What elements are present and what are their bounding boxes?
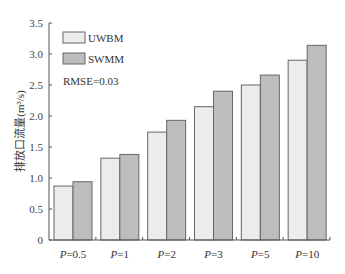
bar-uwbm xyxy=(148,132,167,240)
x-tick-label: P=10 xyxy=(294,248,319,260)
y-tick-label: 3.5 xyxy=(29,17,43,29)
y-tick-label: 2.0 xyxy=(29,110,43,122)
x-tick-label: P=1 xyxy=(110,248,129,260)
bar-swmm xyxy=(73,182,92,240)
bar-uwbm xyxy=(288,60,307,240)
bar-uwbm xyxy=(241,85,260,240)
bar-swmm xyxy=(307,45,326,240)
bar-uwbm xyxy=(101,158,120,240)
legend-swatch-swmm xyxy=(63,53,85,64)
bar-swmm xyxy=(167,120,186,240)
bar-chart: 00.51.01.52.02.53.03.5P=0.5P=1P=2P=3P=5P… xyxy=(0,0,345,274)
legend-label-uwbm: UWBM xyxy=(88,32,124,44)
bar-swmm xyxy=(214,91,233,240)
y-tick-label: 3.0 xyxy=(29,48,43,60)
rmse-annotation: RMSE=0.03 xyxy=(63,75,119,87)
y-tick-label: 2.5 xyxy=(29,79,43,91)
bar-swmm xyxy=(260,75,279,240)
y-tick-label: 1.0 xyxy=(29,172,43,184)
y-tick-label: 1.5 xyxy=(29,141,43,153)
bar-uwbm xyxy=(54,186,73,240)
legend: UWBMSWMM xyxy=(63,32,124,65)
x-tick-label: P=3 xyxy=(203,248,223,260)
legend-label-swmm: SWMM xyxy=(88,53,124,65)
x-tick-label: P=5 xyxy=(250,248,270,260)
bar-uwbm xyxy=(195,107,214,240)
x-tick-label: P=0.5 xyxy=(59,248,87,260)
bar-swmm xyxy=(120,154,139,240)
y-tick-label: 0.5 xyxy=(29,203,43,215)
x-tick-label: P=2 xyxy=(156,248,175,260)
y-tick-label: 0 xyxy=(38,234,44,246)
y-axis-label: 排放口流量(m³/s) xyxy=(13,90,27,172)
legend-swatch-uwbm xyxy=(63,32,85,43)
